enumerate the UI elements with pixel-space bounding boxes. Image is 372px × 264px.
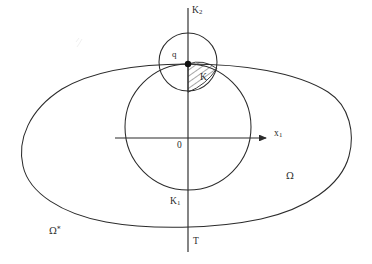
omega-star-boundary (22, 64, 352, 227)
scan-artifact-mark (76, 38, 82, 47)
k2-label: K2 (192, 6, 203, 16)
omega-star-label: Ω* (49, 226, 61, 236)
omega-label: Ω (286, 171, 294, 181)
x1-axis-label: x1 (274, 129, 283, 139)
t-line-label: T (193, 237, 199, 247)
origin-label: 0 (177, 141, 182, 151)
k1-label: K1 (170, 197, 181, 207)
geometry-figure: K2 q K 0 x1 K1 Ω Ω* T (0, 0, 372, 264)
k-region-label: K (200, 73, 207, 83)
q-point-dot (185, 61, 191, 67)
q-label: q (172, 50, 177, 59)
